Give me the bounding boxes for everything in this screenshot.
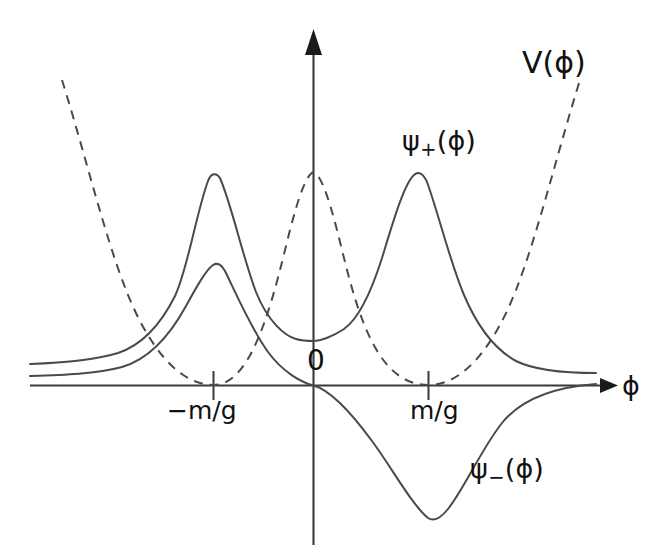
x-axis-arrowhead	[600, 378, 618, 393]
psi-minus-subscript: −	[488, 466, 505, 489]
x-axis-label: ϕ	[622, 372, 640, 399]
psi-minus-label: ψ−(ϕ)	[470, 455, 544, 487]
potential-label: V(ϕ)	[522, 48, 586, 78]
x-tick-label-negative-mg: −m/g	[167, 398, 237, 423]
y-axis-arrowhead	[305, 29, 322, 55]
double-well-plot	[0, 0, 662, 547]
psi-plus-subscript: +	[420, 138, 437, 161]
psi-minus-argument: (ϕ)	[505, 453, 544, 484]
x-tick-label-positive-mg: m/g	[410, 398, 459, 423]
psi-plus-label: ψ+(ϕ)	[402, 127, 476, 159]
figure-container: V(ϕ) ψ+(ϕ) ψ−(ϕ) ϕ 0 −m/g m/g	[0, 0, 662, 547]
origin-label: 0	[307, 347, 325, 375]
psi-plus-argument: (ϕ)	[437, 125, 476, 156]
psi-plus-symbol: ψ	[402, 125, 420, 156]
y-axis	[305, 29, 322, 545]
psi-minus-symbol: ψ	[470, 453, 488, 484]
